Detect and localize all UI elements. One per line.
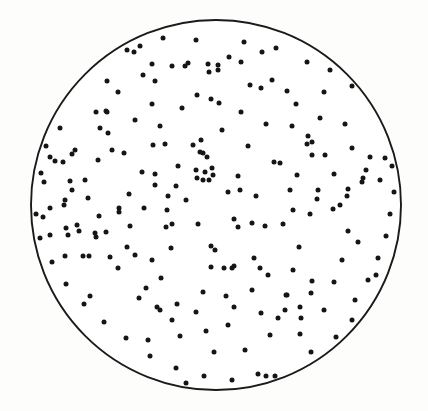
- data-point: [64, 226, 69, 231]
- data-point: [259, 86, 264, 91]
- data-point: [345, 194, 350, 199]
- data-point: [150, 258, 155, 263]
- data-point: [378, 178, 383, 183]
- data-point: [392, 190, 397, 195]
- data-point: [39, 171, 44, 176]
- data-point: [151, 143, 156, 148]
- scatter-figure: [0, 0, 428, 411]
- data-point: [310, 153, 315, 158]
- data-point: [248, 83, 253, 88]
- data-point: [315, 197, 320, 202]
- data-point: [184, 381, 189, 386]
- data-point: [243, 348, 248, 353]
- data-point: [180, 106, 185, 111]
- data-point: [174, 184, 179, 189]
- data-point: [356, 240, 361, 245]
- data-point: [77, 229, 82, 234]
- data-point: [384, 234, 389, 239]
- data-point: [239, 60, 244, 65]
- data-point: [346, 229, 351, 234]
- data-point: [184, 198, 189, 203]
- data-point: [212, 350, 217, 355]
- data-point: [284, 293, 289, 298]
- data-point: [276, 316, 281, 321]
- data-point: [110, 148, 115, 153]
- data-point: [116, 266, 121, 271]
- data-point: [48, 155, 53, 160]
- data-point: [175, 302, 180, 307]
- data-point: [148, 354, 153, 359]
- data-point: [132, 50, 137, 55]
- data-point: [153, 183, 158, 188]
- data-point: [163, 142, 168, 147]
- data-point: [104, 109, 109, 114]
- data-point: [211, 173, 216, 178]
- data-point: [331, 207, 336, 212]
- data-point: [220, 128, 225, 133]
- data-point: [161, 36, 166, 41]
- data-point: [34, 212, 39, 217]
- data-point: [254, 194, 259, 199]
- data-point: [306, 134, 311, 139]
- data-point: [224, 294, 229, 299]
- data-point: [239, 110, 244, 115]
- data-point: [270, 78, 275, 83]
- data-point: [274, 46, 279, 51]
- data-point: [170, 222, 175, 227]
- data-point: [186, 61, 191, 66]
- data-point: [150, 62, 155, 67]
- data-point: [350, 84, 355, 89]
- data-point: [305, 142, 310, 147]
- data-point: [133, 253, 138, 258]
- data-point: [309, 350, 314, 355]
- data-point: [165, 208, 170, 213]
- data-point: [368, 155, 373, 160]
- data-point: [266, 273, 271, 278]
- data-point: [246, 144, 251, 149]
- data-point: [374, 273, 379, 278]
- data-point: [328, 68, 333, 73]
- data-point: [63, 254, 68, 259]
- data-point: [334, 335, 339, 340]
- data-point: [191, 143, 196, 148]
- data-point: [137, 296, 142, 301]
- data-point: [102, 320, 107, 325]
- data-point: [291, 208, 296, 213]
- data-point: [62, 203, 67, 208]
- data-point: [264, 122, 269, 127]
- data-point: [256, 372, 261, 377]
- data-point: [83, 178, 88, 183]
- data-point: [236, 174, 241, 179]
- data-point: [153, 172, 158, 177]
- data-point: [122, 151, 127, 156]
- data-point: [44, 144, 49, 149]
- data-point: [242, 40, 247, 45]
- data-point: [205, 155, 210, 160]
- data-point: [209, 97, 214, 102]
- data-point: [298, 332, 303, 337]
- data-point: [273, 374, 278, 379]
- data-point: [213, 248, 218, 253]
- data-point: [364, 168, 369, 173]
- data-point: [250, 288, 255, 293]
- data-point: [272, 160, 277, 165]
- data-point: [268, 333, 273, 338]
- data-point: [61, 160, 66, 165]
- data-point: [64, 282, 69, 287]
- data-point: [194, 38, 199, 43]
- data-point: [50, 260, 55, 265]
- data-point: [216, 63, 221, 68]
- data-point: [209, 244, 214, 249]
- data-point: [81, 254, 86, 259]
- data-point: [48, 233, 53, 238]
- data-point: [259, 311, 264, 316]
- data-point: [322, 90, 327, 95]
- data-point: [138, 44, 143, 49]
- data-point: [42, 180, 47, 185]
- data-point: [278, 161, 283, 166]
- data-point: [232, 217, 237, 222]
- data-point: [360, 180, 365, 185]
- data-point: [194, 168, 199, 173]
- data-point: [105, 79, 110, 84]
- data-point: [70, 188, 75, 193]
